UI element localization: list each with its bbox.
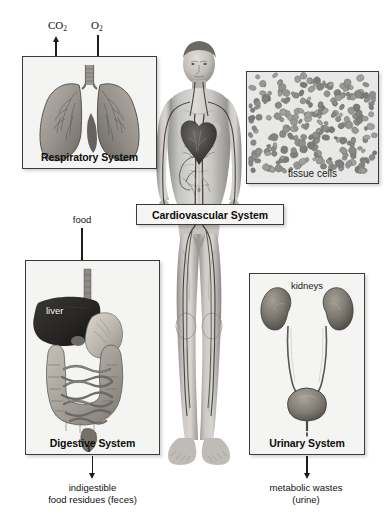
digestive-organs-illustration — [26, 261, 159, 454]
panel-caption-digestive: Digestive System — [26, 437, 159, 449]
urine-caption-line1: metabolic wastes — [228, 482, 384, 494]
co2-label-text: CO — [48, 19, 63, 31]
physiology-systems-diagram: Cardiovascular System CO2 O2 — [0, 0, 385, 523]
body-silhouette — [156, 41, 241, 465]
urine-arrowhead-icon — [304, 473, 310, 479]
panel-caption-tissue-cells: tissue cells — [247, 168, 378, 179]
co2-label: CO2 — [48, 19, 67, 31]
urine-caption: metabolic wastes (urine) — [228, 482, 384, 506]
panel-caption-respiratory: Respiratory System — [23, 151, 156, 163]
kidneys-label: kidneys — [250, 280, 364, 291]
o2-label-subscript: 2 — [99, 24, 103, 33]
panel-tissue-cells: tissue cells — [246, 71, 379, 184]
panel-digestive-system: Digestive System — [25, 260, 160, 455]
feces-arrowhead-icon — [89, 473, 95, 479]
panel-urinary-system: kidneys Urinary System — [249, 273, 365, 455]
liver-label: liver — [46, 305, 63, 316]
feces-caption-line1: indigestible — [0, 482, 185, 494]
food-label: food — [62, 214, 102, 226]
feces-caption: indigestible food residues (feces) — [0, 482, 185, 506]
o2-label: O2 — [91, 19, 103, 31]
feces-caption-line2: food residues (feces) — [0, 494, 185, 506]
tissue-cell-field-illustration — [247, 72, 378, 183]
cardiovascular-system-label: Cardiovascular System — [136, 204, 284, 225]
urinary-organs-illustration — [250, 274, 364, 454]
co2-label-subscript: 2 — [63, 24, 67, 33]
urine-caption-line2: (urine) — [228, 494, 384, 506]
panel-respiratory-system: Respiratory System — [22, 56, 157, 169]
o2-label-text: O — [91, 19, 99, 31]
panel-caption-urinary: Urinary System — [250, 437, 364, 449]
cardiovascular-system-label-text: Cardiovascular System — [152, 209, 268, 221]
